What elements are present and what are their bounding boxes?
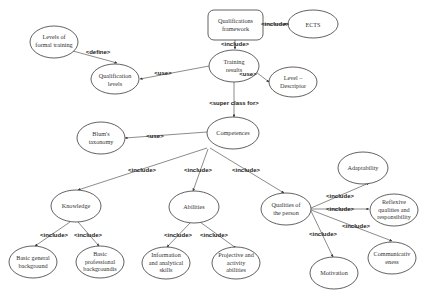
- svg-text:Basic general: Basic general: [16, 254, 50, 261]
- node-knowledge[interactable]: Knowledge: [51, 190, 101, 222]
- edge-label-tr-ql: <use>: [154, 70, 172, 76]
- svg-text:<include>: <include>: [40, 232, 69, 238]
- node-label: formal training: [35, 41, 72, 48]
- edge-tr-ld: [256, 72, 269, 82]
- node-adaptability[interactable]: Adaptability: [338, 152, 388, 184]
- edge-label-comp-abil: <include>: [184, 167, 213, 173]
- node-label: backgroundis: [83, 265, 117, 272]
- node-label: Level –: [284, 74, 304, 81]
- svg-text:<include>: <include>: [164, 232, 193, 238]
- node-label: Reflexive: [382, 198, 406, 205]
- node-label: activity: [227, 259, 246, 266]
- node-motivation[interactable]: Motivation: [310, 257, 358, 289]
- node-level-descriptor[interactable]: Level – Descriptor: [269, 67, 317, 97]
- node-basic-general-background[interactable]: Basic general background: [9, 246, 57, 278]
- node-label: eness: [385, 258, 399, 265]
- node-competences[interactable]: Competences: [207, 117, 259, 149]
- svg-text:Qualities of: Qualities of: [271, 201, 301, 208]
- svg-text:qualities and: qualities and: [378, 206, 410, 213]
- svg-text:<include>: <include>: [261, 21, 290, 27]
- node-ects[interactable]: ECTS: [288, 10, 338, 38]
- node-label: Motivation: [320, 269, 348, 276]
- svg-text:<include>: <include>: [326, 206, 355, 212]
- node-label: Information: [151, 251, 181, 258]
- svg-text:taxonomy: taxonomy: [89, 138, 115, 145]
- node-blums-taxonomy[interactable]: Blum's taxonomy: [77, 122, 125, 154]
- edge-label-comp-qual: <include>: [232, 167, 261, 173]
- edge-label-lft-ql: <define>: [86, 49, 111, 55]
- edge-label-know-bp: <include>: [74, 232, 103, 238]
- svg-text:background: background: [18, 262, 48, 269]
- node-label: Projective and: [218, 251, 254, 258]
- svg-text:<use>: <use>: [239, 71, 257, 77]
- node-training-results[interactable]: Training results: [209, 50, 259, 82]
- svg-text:<include>: <include>: [309, 231, 338, 237]
- svg-text:Descriptor: Descriptor: [280, 82, 306, 89]
- node-label: professional: [85, 258, 116, 265]
- node-qualification-levels[interactable]: Qualification levels: [91, 64, 139, 94]
- edge-tr-ql: [140, 66, 209, 79]
- svg-text:Knowledge: Knowledge: [62, 202, 91, 209]
- svg-text:<use>: <use>: [154, 70, 172, 76]
- node-label: taxonomy: [89, 138, 115, 145]
- node-label: framework: [222, 25, 250, 32]
- node-label: Competences: [216, 129, 250, 136]
- node-basic-professional-background[interactable]: Basic professional backgroundis: [76, 246, 124, 278]
- svg-text:<include>: <include>: [128, 167, 157, 173]
- svg-text:Abilities: Abilities: [183, 203, 205, 210]
- svg-text:activity: activity: [227, 259, 246, 266]
- svg-text:Communicativ: Communicativ: [374, 250, 412, 257]
- svg-text:<use>: <use>: [146, 133, 164, 139]
- node-qualifications-framework[interactable]: Qualifications framework: [208, 10, 263, 40]
- node-qualities-person[interactable]: Qualities of the person: [261, 193, 311, 225]
- node-communicativeness[interactable]: Communicativ eness: [368, 242, 416, 274]
- node-label: ECTS: [305, 21, 321, 28]
- concept-diagram: Qualifications framework ECTS Levels of …: [0, 0, 429, 297]
- node-label: skills: [159, 266, 173, 273]
- node-label: Blum's: [92, 130, 110, 137]
- svg-text:Training: Training: [223, 58, 244, 65]
- edge-label-comp-know: <include>: [128, 167, 157, 173]
- node-label: responsibility: [377, 213, 412, 220]
- node-label: Knowledge: [62, 202, 91, 209]
- svg-text:Projective and: Projective and: [218, 251, 254, 258]
- node-label: Qualification: [99, 72, 132, 79]
- svg-text:Level –: Level –: [284, 74, 304, 81]
- svg-text:Qualification: Qualification: [99, 72, 132, 79]
- svg-text:<include>: <include>: [221, 41, 250, 47]
- svg-text:Adaptability: Adaptability: [348, 164, 380, 171]
- node-label: Basic general: [16, 254, 50, 261]
- node-label: and analytical: [149, 259, 184, 266]
- svg-text:<define>: <define>: [86, 49, 111, 55]
- svg-text:<include>: <include>: [342, 223, 371, 229]
- node-label: Descriptor: [280, 82, 306, 89]
- svg-text:framework: framework: [222, 25, 250, 32]
- node-label: Abilities: [183, 203, 205, 210]
- node-label: background: [18, 262, 48, 269]
- svg-text:the person: the person: [273, 209, 299, 216]
- svg-text:formal training: formal training: [35, 41, 72, 48]
- node-label: abilities: [226, 266, 246, 273]
- node-levels-formal-training[interactable]: Levels of formal training: [30, 26, 78, 58]
- node-abilities[interactable]: Abilities: [169, 191, 219, 223]
- node-label: Training: [223, 58, 244, 65]
- edge-label-qf-tr: <include>: [221, 41, 250, 47]
- edge-label-abil-info: <include>: [164, 232, 193, 238]
- edge-label-qual-adapt: <include>: [326, 193, 355, 199]
- node-information-analytical-skills[interactable]: Information and analytical skills: [142, 247, 190, 279]
- svg-text:levels: levels: [108, 80, 123, 87]
- edge-label-qual-refl: <include>: [326, 206, 355, 212]
- edge-label-qual-comm: <include>: [342, 223, 371, 229]
- node-projective-activity-abilities[interactable]: Projective and activity abilities: [212, 247, 260, 279]
- edge-label-abil-proj: <include>: [200, 232, 229, 238]
- edge-comp-blum: [125, 132, 207, 138]
- edge-label-qf-ects: <include>: [261, 21, 290, 27]
- svg-text:Reflexive: Reflexive: [382, 198, 406, 205]
- node-label: the person: [273, 209, 299, 216]
- node-label: Qualities of: [271, 201, 301, 208]
- svg-text:abilities: abilities: [226, 266, 246, 273]
- svg-text:Information: Information: [151, 251, 181, 258]
- svg-text:Basic: Basic: [93, 250, 107, 257]
- node-reflexive-qualities[interactable]: Reflexive qualities and responsibility: [370, 194, 418, 226]
- svg-text:<include>: <include>: [232, 167, 261, 173]
